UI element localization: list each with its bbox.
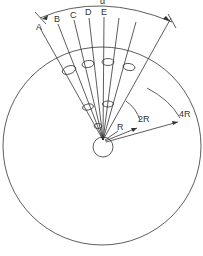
arc-4r: [147, 88, 180, 118]
arrowhead-4r: [172, 121, 178, 125]
label-b: B: [54, 14, 60, 24]
label-r: R: [117, 122, 124, 132]
diagram-canvas: α A B C D E R 2R 4R: [0, 0, 203, 256]
label-a: A: [36, 22, 42, 32]
label-4r: 4R: [179, 109, 191, 119]
label-d: D: [85, 7, 92, 17]
ray-fan: [40, 17, 171, 140]
outer-circle: [3, 47, 201, 245]
label-e: E: [101, 7, 107, 17]
label-c: C: [70, 10, 77, 20]
arrowhead-right: [163, 16, 170, 21]
label-2r: 2R: [138, 114, 150, 124]
label-top: α: [100, 0, 105, 6]
ellipses: [61, 59, 135, 129]
